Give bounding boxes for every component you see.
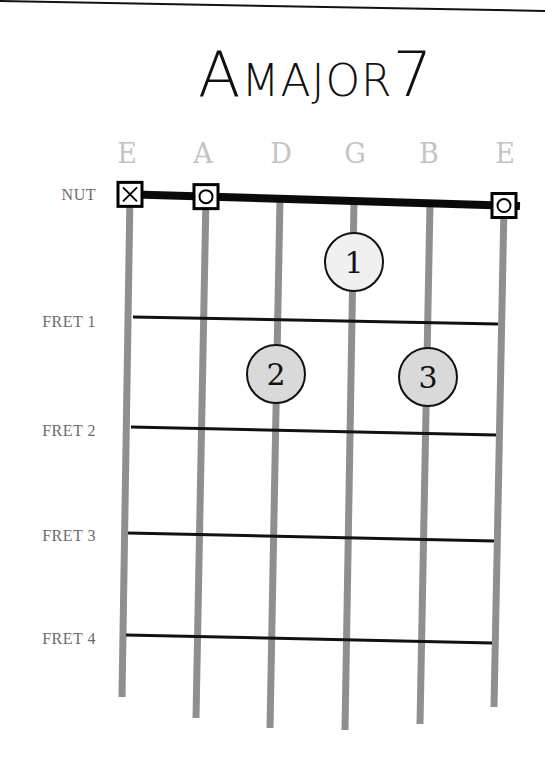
finger-number: 3 (418, 360, 437, 395)
guitar-string-6 (494, 206, 504, 707)
fret-line-1 (133, 317, 498, 324)
finger-dot-3: 3 (399, 348, 457, 406)
finger-dot-2: 2 (247, 345, 305, 403)
finger-number: 2 (266, 357, 285, 392)
open-string-icon-6 (492, 194, 516, 218)
fretboard: 123 (0, 0, 545, 761)
nut-bar (118, 194, 520, 206)
guitar-string-5 (420, 203, 430, 724)
finger-dot-1: 1 (325, 233, 383, 291)
muted-string-icon-1 (118, 182, 142, 206)
chord-diagram: AMAJOR7 EADGBE NUTFRET 1FRET 2FRET 3FRET… (0, 0, 545, 761)
fret-line-2 (131, 427, 496, 435)
guitar-string-3 (270, 199, 280, 728)
finger-number: 1 (344, 245, 363, 280)
open-string-icon-2 (194, 185, 218, 209)
fret-line-4 (126, 635, 492, 643)
fret-line-3 (128, 533, 494, 541)
guitar-string-2 (196, 197, 206, 718)
guitar-string-1 (122, 194, 130, 697)
